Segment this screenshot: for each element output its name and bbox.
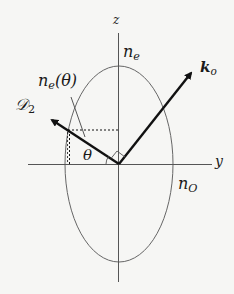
ne-base: n [123, 42, 133, 61]
ko-label: ko [200, 60, 217, 76]
netheta-argument: (θ) [55, 71, 77, 90]
no-label: nO [178, 176, 197, 194]
y-axis-label: y [215, 154, 223, 168]
theta-text: θ [83, 146, 92, 164]
z-axis-label: z [113, 14, 119, 26]
netheta-base: n [38, 71, 48, 90]
netheta-subscript: e [48, 79, 55, 92]
ko-subscript: o [210, 65, 216, 77]
index-ellipsoid-diagram: z y ne nO ne(θ) ko 𝒟2 θ [0, 0, 234, 294]
netheta-label: ne(θ) [38, 73, 77, 91]
netheta-leader-line [71, 97, 85, 137]
diagram-graphics [0, 0, 234, 294]
ko-base: k [200, 58, 210, 76]
no-base: n [178, 174, 188, 193]
ne-subscript: e [133, 50, 140, 63]
y-axis-label-text: y [215, 153, 223, 169]
theta-arc [106, 157, 109, 165]
z-axis-label-text: z [113, 13, 119, 27]
ko-vector-arrow [119, 73, 191, 164]
ne-label: ne [123, 44, 140, 62]
no-subscript: O [188, 182, 197, 195]
d2-subscript: 2 [28, 103, 35, 116]
d2-base: 𝒟 [15, 95, 28, 114]
d2-label: 𝒟2 [15, 97, 35, 115]
theta-label: θ [83, 148, 92, 163]
